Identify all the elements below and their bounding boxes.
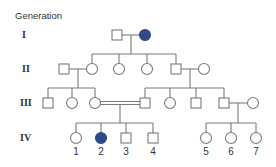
female-symbol (114, 64, 125, 75)
individual-number: 1 (73, 146, 79, 157)
female-affected-symbol (96, 133, 107, 144)
female-symbol (251, 133, 262, 144)
female-symbol (67, 98, 78, 109)
individual-number: 4 (150, 146, 156, 157)
female-symbol (165, 98, 176, 109)
male-symbol (59, 64, 69, 74)
female-symbol (199, 64, 210, 75)
male-symbol (112, 30, 122, 40)
female-symbol (201, 133, 212, 144)
individual-number: 2 (98, 146, 104, 157)
individual-number: 6 (228, 146, 234, 157)
male-symbol (219, 98, 229, 108)
male-symbol (191, 98, 201, 108)
female-symbol (90, 98, 101, 109)
pedigree-diagram: Generation I II III IV 1234567 (0, 0, 276, 167)
female-symbol (142, 64, 153, 75)
female-symbol (248, 98, 259, 109)
male-symbol (171, 64, 181, 74)
male-symbol (121, 133, 131, 143)
male-symbol (140, 98, 150, 108)
individual-number: 7 (253, 146, 259, 157)
individual-number: 3 (123, 146, 129, 157)
female-symbol (226, 133, 237, 144)
pedigree-chart: 1234567 (0, 0, 276, 167)
male-symbol (148, 133, 158, 143)
individual-number: 5 (203, 146, 209, 157)
male-symbol (43, 98, 53, 108)
female-symbol (87, 64, 98, 75)
female-symbol (71, 133, 82, 144)
female-affected-symbol (140, 30, 151, 41)
